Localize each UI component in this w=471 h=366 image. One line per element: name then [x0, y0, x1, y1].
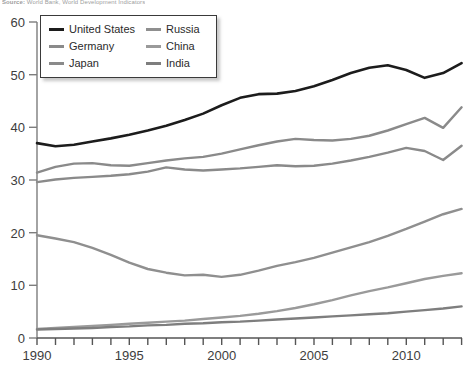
svg-text:2000: 2000	[207, 348, 236, 363]
svg-text:50: 50	[11, 68, 25, 83]
legend-item-label: China	[166, 41, 195, 52]
legend-item-label: United States	[69, 24, 135, 35]
x-axis: 1990 1995 2000 2005 2010	[23, 338, 462, 363]
legend-swatch-icon	[146, 45, 161, 48]
legend-item-japan[interactable]: Japan	[49, 58, 146, 69]
y-axis: 60 50 40 30 20 10 0	[11, 15, 37, 346]
legend-item-china[interactable]: China	[146, 41, 210, 52]
line-chart: Source: World Bank, World Development In…	[0, 0, 471, 366]
svg-text:20: 20	[11, 226, 25, 241]
svg-text:2010: 2010	[392, 348, 421, 363]
legend-item-label: India	[166, 58, 190, 69]
legend-swatch-icon	[49, 28, 64, 31]
series-line-russia	[37, 209, 462, 277]
legend-item-label: Russia	[166, 24, 200, 35]
svg-text:1995: 1995	[115, 348, 144, 363]
svg-text:1990: 1990	[23, 348, 52, 363]
svg-text:10: 10	[11, 278, 25, 293]
chart-legend: United StatesRussiaGermanyChinaJapanIndi…	[40, 15, 217, 78]
svg-text:30: 30	[11, 173, 25, 188]
data-series-layer	[37, 63, 462, 329]
legend-item-label: Japan	[69, 58, 99, 69]
svg-text:2005: 2005	[300, 348, 329, 363]
legend-swatch-icon	[49, 62, 64, 65]
legend-item-germany[interactable]: Germany	[49, 41, 146, 52]
x-axis-ticks	[37, 338, 462, 345]
legend-item-russia[interactable]: Russia	[146, 24, 210, 35]
legend-item-india[interactable]: India	[146, 58, 210, 69]
legend-item-label: Germany	[69, 41, 114, 52]
svg-text:60: 60	[11, 15, 25, 30]
legend-swatch-icon	[146, 62, 161, 65]
legend-item-united-states[interactable]: United States	[49, 24, 146, 35]
legend-swatch-icon	[49, 45, 64, 48]
y-axis-tick-labels: 60 50 40 30 20 10 0	[11, 15, 25, 346]
svg-text:0: 0	[18, 331, 25, 346]
y-axis-ticks	[29, 22, 37, 338]
legend-swatch-icon	[146, 28, 161, 31]
legend-grid: United StatesRussiaGermanyChinaJapanIndi…	[49, 21, 210, 72]
x-axis-tick-labels: 1990 1995 2000 2005 2010	[23, 348, 421, 363]
svg-text:40: 40	[11, 120, 25, 135]
